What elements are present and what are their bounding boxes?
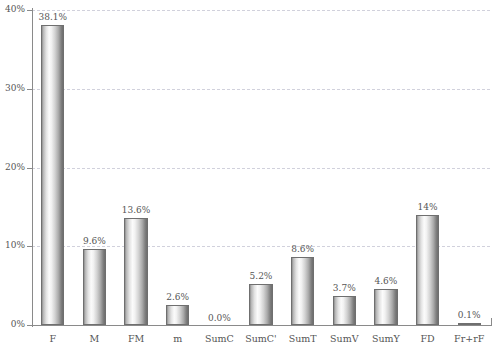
y-axis-tick-mark: [27, 325, 32, 326]
bar: 9.6%: [83, 249, 106, 325]
bar-value-label: 4.6%: [374, 275, 397, 287]
bar-group: 4.6%: [374, 10, 397, 325]
bars-layer: 38.1%9.6%13.6%2.6%0.0%5.2%8.6%3.7%4.6%14…: [32, 10, 490, 325]
bar: 13.6%: [124, 218, 147, 325]
bar: 2.6%: [166, 305, 189, 325]
bar: 8.6%: [291, 257, 314, 325]
x-axis-category-label: FD: [407, 331, 449, 347]
bar-value-label: 14%: [418, 201, 438, 213]
y-axis-tick-label: 0%: [0, 318, 25, 331]
x-axis-category-label: SumY: [365, 331, 407, 347]
y-axis-tick-label: 10%: [0, 239, 25, 252]
x-axis-category-label: M: [74, 331, 116, 347]
bar-value-label: 38.1%: [39, 11, 68, 23]
x-axis-category-label: SumC: [199, 331, 241, 347]
x-axis-category-label: SumV: [323, 331, 365, 347]
y-axis-tick-label: 20%: [0, 161, 25, 174]
bar-group: 0.1%: [458, 10, 481, 325]
y-axis-endcap: [32, 325, 37, 326]
bar: 4.6%: [374, 289, 397, 325]
bar-group: 38.1%: [41, 10, 64, 325]
bar: 14%: [416, 215, 439, 325]
bar-value-label: 9.6%: [83, 235, 106, 247]
bar: 5.2%: [249, 284, 272, 325]
bar-group: 8.6%: [291, 10, 314, 325]
x-axis-category-label: SumC': [240, 331, 282, 347]
bar-chart: 0%10%20%30%40% 38.1%9.6%13.6%2.6%0.0%5.2…: [0, 0, 502, 357]
bar-value-label: 13.6%: [122, 204, 151, 216]
bar-group: 14%: [416, 10, 439, 325]
bar-group: 13.6%: [124, 10, 147, 325]
x-axis-category-label: FM: [115, 331, 157, 347]
y-axis-tick-label: 40%: [0, 3, 25, 16]
bar-value-label: 3.7%: [333, 282, 356, 294]
bar-group: 2.6%: [166, 10, 189, 325]
x-axis-endcap: [491, 318, 492, 326]
bar-group: 5.2%: [249, 10, 272, 325]
x-axis-category-label: m: [157, 331, 199, 347]
x-axis-category-label: Fr+rF: [448, 331, 490, 347]
x-axis-category-label: SumT: [282, 331, 324, 347]
bar: 0.1%: [458, 323, 481, 325]
bar-value-label: 5.2%: [250, 270, 273, 282]
bar: 3.7%: [333, 296, 356, 325]
bar: 38.1%: [41, 25, 64, 325]
bar-value-label: 0.1%: [458, 309, 481, 321]
bar-value-label: 0.0%: [208, 312, 231, 324]
x-axis-line: [32, 325, 491, 326]
bar-group: 9.6%: [83, 10, 106, 325]
bar-group: 3.7%: [333, 10, 356, 325]
y-axis-tick-label: 30%: [0, 82, 25, 95]
bar-group: 0.0%: [208, 10, 231, 325]
x-axis-labels: FMFMmSumCSumC'SumTSumVSumYFDFr+rF: [32, 331, 490, 353]
bar-value-label: 8.6%: [291, 243, 314, 255]
x-axis-category-label: F: [32, 331, 74, 347]
bar-value-label: 2.6%: [166, 291, 189, 303]
